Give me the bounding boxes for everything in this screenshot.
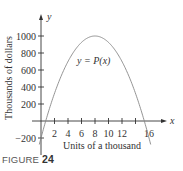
y-tick-label: 1000: [16, 31, 36, 42]
x-tick-label: 10: [104, 128, 114, 139]
y-tick-label: 200: [21, 99, 36, 110]
caption-number: 24: [42, 153, 54, 165]
x-axis-arrow-icon: [161, 119, 167, 123]
x-tick-label: 2: [52, 128, 57, 139]
y-tick-label: −200: [15, 133, 36, 144]
profit-chart: 1000800600400200−200 2468101216 y x y = …: [0, 0, 183, 171]
x-axis-name: x: [169, 115, 175, 126]
figure-caption: FIGURE 24: [2, 153, 54, 165]
x-axis-label: Units of a thousand: [63, 140, 141, 151]
y-tick-label: 400: [21, 82, 36, 93]
y-tick-label: 800: [21, 48, 36, 59]
x-tick-label: 4: [66, 128, 71, 139]
y-axis-label: Thousands of dollars: [3, 36, 14, 120]
x-tick-label: 6: [79, 128, 84, 139]
y-tick-label: 600: [21, 65, 36, 76]
caption-prefix: FIGURE: [2, 154, 39, 165]
x-tick-label: 8: [93, 128, 98, 139]
x-tick-label: 12: [117, 128, 127, 139]
y-axis-name: y: [46, 11, 52, 22]
curve-label: y = P(x): [76, 55, 111, 67]
y-axis-arrow-icon: [39, 14, 43, 20]
